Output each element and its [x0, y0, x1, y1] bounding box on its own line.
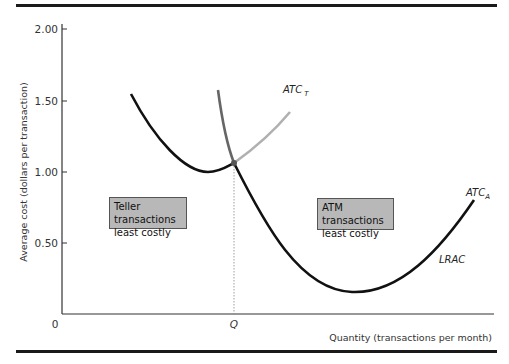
q-tick-label: Q: [230, 318, 238, 330]
origin-label: 0: [52, 318, 59, 330]
bottom-rule: [16, 350, 497, 353]
y-tick-label-2-00: 2.00: [35, 23, 58, 35]
teller-least-costly-box: Teller transactions least costly: [109, 197, 187, 229]
atm-least-costly-box: ATM transactions least costly: [317, 198, 394, 230]
atm-box-line2: least costly: [322, 227, 389, 240]
y-axis-title: Average cost (dollars per transaction): [18, 82, 29, 261]
y-tick-label-0-50: 0.50: [35, 237, 58, 249]
teller-box-line2: least costly: [114, 226, 182, 239]
teller-box-line1: Teller transactions: [114, 200, 182, 226]
lrac-label: LRAC: [439, 254, 465, 265]
y-tick-label-1-50: 1.50: [35, 95, 58, 107]
atc-t-label: ATCT: [282, 84, 309, 98]
atc-a-label: ATCA: [465, 187, 490, 201]
lrac-teller-segment: [131, 94, 234, 172]
x-axis-title: Quantity (transactions per month): [329, 332, 492, 343]
atc-t-rising-curve: [234, 112, 290, 163]
atm-box-line1: ATM transactions: [322, 201, 389, 227]
atc-t-upper-left-curve: [218, 90, 234, 163]
intersection-point: [231, 160, 237, 166]
y-tick-label-1-00: 1.00: [35, 166, 58, 178]
chart-canvas: 2.00 1.50 1.00 0.50 0 Average cost (doll…: [0, 0, 509, 364]
